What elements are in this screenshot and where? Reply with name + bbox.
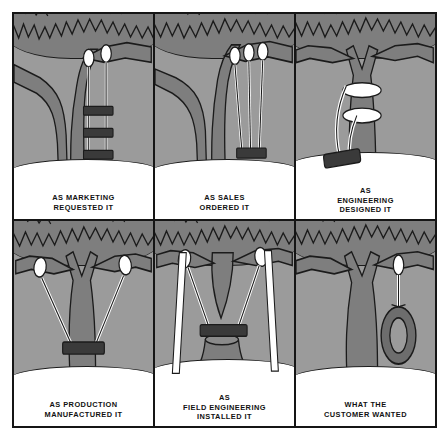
swing-rigging-sales xyxy=(155,14,294,190)
scene-engineering xyxy=(296,14,435,183)
caption-marketing: AS MARKETING REQUESTED IT xyxy=(14,190,153,219)
panel-customer: WHAT THE CUSTOMER WANTED xyxy=(296,221,435,426)
caption-engineering: AS ENGINEERING DESIGNED IT xyxy=(296,183,435,219)
swing-rigging-production xyxy=(14,221,153,397)
caption-production: AS PRODUCTION MANUFACTURED IT xyxy=(14,397,153,426)
panel-engineering: AS ENGINEERING DESIGNED IT xyxy=(296,14,435,219)
caption-field-engineering: AS FIELD ENGINEERING INSTALLED IT xyxy=(155,390,294,426)
panel-row-top: AS MARKETING REQUESTED IT xyxy=(14,14,435,221)
caption-customer: WHAT THE CUSTOMER WANTED xyxy=(296,397,435,426)
panel-row-bottom: AS PRODUCTION MANUFACTURED IT xyxy=(14,221,435,426)
panel-sales: AS SALES ORDERED IT xyxy=(153,14,296,219)
scene-field-engineering xyxy=(155,221,294,390)
scene-production xyxy=(14,221,153,397)
swing-rigging-engineering xyxy=(296,14,435,183)
tree-swing-cartoon: AS MARKETING REQUESTED IT xyxy=(12,12,437,428)
panel-field-engineering: AS FIELD ENGINEERING INSTALLED IT xyxy=(153,221,296,426)
panel-production: AS PRODUCTION MANUFACTURED IT xyxy=(14,221,153,426)
panel-marketing: AS MARKETING REQUESTED IT xyxy=(14,14,153,219)
caption-sales: AS SALES ORDERED IT xyxy=(155,190,294,219)
scene-marketing xyxy=(14,14,153,190)
tire-swing-customer xyxy=(296,221,435,397)
swing-rigging-marketing xyxy=(14,14,153,190)
scene-sales xyxy=(155,14,294,190)
scene-customer xyxy=(296,221,435,397)
swing-rigging-field-engineering xyxy=(155,221,294,390)
